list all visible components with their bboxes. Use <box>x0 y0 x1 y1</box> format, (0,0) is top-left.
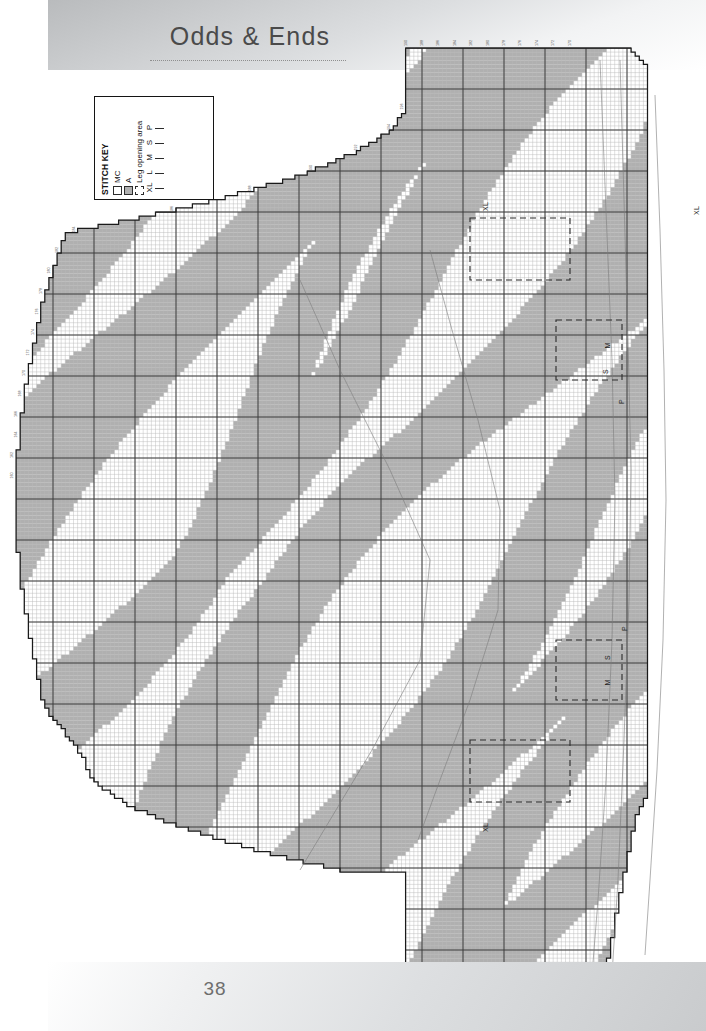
legend-label-m: M <box>145 154 154 161</box>
legend-label-p: P <box>145 125 154 130</box>
svg-text:176: 176 <box>35 308 39 314</box>
swatch-a-icon <box>124 186 133 195</box>
svg-text:190: 190 <box>309 165 313 171</box>
svg-text:186: 186 <box>170 206 174 212</box>
legend-item-leg-opening: Leg opening area <box>134 101 145 195</box>
chart-annotation-xl-0: XL <box>482 202 489 211</box>
chart-annotation-m-2: M <box>604 342 611 348</box>
svg-text:174: 174 <box>535 40 539 46</box>
size-line-xl-icon <box>155 185 164 194</box>
svg-text:170: 170 <box>22 370 26 376</box>
svg-text:172: 172 <box>27 349 31 355</box>
size-line-l-icon <box>155 170 164 179</box>
swatch-leg-opening-icon <box>135 186 144 195</box>
legend-label-l: L <box>145 170 154 174</box>
svg-text:190: 190 <box>404 40 408 46</box>
swatch-mc-icon <box>113 186 122 195</box>
legend-size-m: M <box>145 150 164 165</box>
svg-text:172: 172 <box>551 40 555 46</box>
legend-label-s: S <box>145 140 154 145</box>
stitch-key-title: STITCH KEY <box>100 101 110 195</box>
legend-size-l: L <box>145 165 164 180</box>
footer-band <box>48 962 706 1031</box>
svg-text:170: 170 <box>568 40 572 46</box>
svg-text:160: 160 <box>10 472 14 478</box>
stitch-key-inner: STITCH KEY MC A Leg opening area XL L M <box>95 97 214 200</box>
svg-text:164: 164 <box>14 431 18 437</box>
svg-text:178: 178 <box>39 288 43 294</box>
legend-size-p: P <box>145 120 164 135</box>
page-number: 38 <box>155 978 275 1000</box>
svg-text:168: 168 <box>18 390 22 396</box>
svg-text:166: 166 <box>14 411 18 417</box>
svg-text:192: 192 <box>355 144 359 150</box>
svg-text:180: 180 <box>486 40 490 46</box>
chart-annotation-xl-1: XL <box>693 206 700 215</box>
svg-text:182: 182 <box>55 247 59 253</box>
size-line-m-icon <box>155 155 164 164</box>
chart-annotation-s-3: S <box>602 369 609 374</box>
stitch-key-legend: STITCH KEY MC A Leg opening area XL L M <box>94 96 214 200</box>
chart-annotation-m-7: M <box>604 679 611 685</box>
legend-size-s: S <box>145 135 164 150</box>
svg-text:188: 188 <box>248 185 252 191</box>
svg-text:180: 180 <box>47 267 51 273</box>
size-line-p-icon <box>155 125 164 134</box>
legend-item-mc: MC <box>112 101 123 195</box>
chart-annotation-s-6: S <box>604 655 611 660</box>
svg-text:178: 178 <box>502 40 506 46</box>
legend-label-leg-opening: Leg opening area <box>135 121 144 183</box>
svg-text:162: 162 <box>10 452 14 458</box>
size-line-s-icon <box>155 140 164 149</box>
svg-text:174: 174 <box>31 329 35 335</box>
chart-annotation-xl-8: XL <box>482 823 489 832</box>
svg-text:194: 194 <box>387 124 391 130</box>
legend-label-mc: MC <box>113 171 122 183</box>
svg-text:184: 184 <box>453 40 457 46</box>
legend-size-markers: XL L M S P <box>145 101 164 195</box>
chart-annotation-p-5: P <box>621 626 628 631</box>
svg-text:184: 184 <box>72 226 76 232</box>
legend-size-xl: XL <box>145 180 164 195</box>
svg-text:196: 196 <box>400 103 404 109</box>
svg-text:176: 176 <box>518 40 522 46</box>
legend-label-xl: XL <box>145 183 154 193</box>
svg-text:186: 186 <box>436 40 440 46</box>
legend-label-a: A <box>124 178 133 183</box>
legend-item-a: A <box>123 101 134 195</box>
svg-text:182: 182 <box>469 40 473 46</box>
svg-text:188: 188 <box>420 40 424 46</box>
chart-annotation-p-4: P <box>618 399 625 404</box>
